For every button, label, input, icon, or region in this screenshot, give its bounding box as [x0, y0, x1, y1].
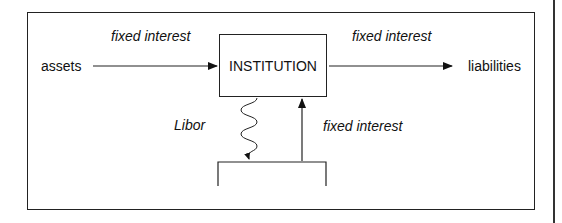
liabilities-label: liabilities: [468, 59, 521, 73]
assets-label: assets: [41, 59, 81, 73]
counterparty-box: [218, 162, 326, 186]
wavy-arrow-libor: [241, 98, 257, 159]
edge-label-assets-fixed-interest: fixed interest: [111, 29, 190, 43]
edge-label-swap-fixed-interest: fixed interest: [323, 119, 402, 133]
institution-box: INSTITUTION: [219, 34, 327, 97]
institution-label: INSTITUTION: [229, 58, 317, 74]
edge-label-liabilities-fixed-interest: fixed interest: [352, 29, 431, 43]
edge-label-libor: Libor: [174, 118, 205, 132]
